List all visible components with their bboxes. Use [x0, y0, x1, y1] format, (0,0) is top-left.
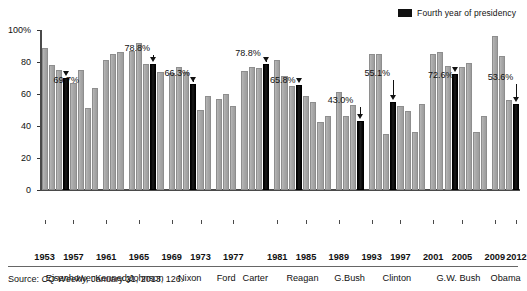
x-axis-tick-mark: [73, 220, 74, 224]
callout-arrow-line: [516, 84, 517, 97]
president-label: Reagan: [286, 273, 318, 283]
x-axis-tick-mark: [400, 220, 401, 224]
bar-value-callout: 43.0%: [328, 95, 354, 105]
president-label: Clinton: [383, 273, 412, 283]
callout-arrow-line: [66, 87, 67, 89]
y-axis-tick-label: 100%: [8, 25, 31, 35]
x-axis-tick-label: 1989: [329, 252, 349, 262]
x-axis-tick-mark: [306, 220, 307, 224]
x-axis-tick-mark: [45, 220, 46, 224]
callout-arrow-head: [452, 67, 458, 72]
callout-arrow-head: [390, 95, 396, 100]
bar-value-callout: 66.3%: [165, 68, 191, 78]
president-label: Ford: [217, 273, 236, 283]
legend-swatch-fourth-year: [398, 9, 412, 17]
x-axis-tick-mark: [372, 220, 373, 224]
x-axis-tick-mark: [433, 220, 434, 224]
y-axis-labels: 100%806040200: [0, 30, 36, 220]
y-axis-tick-label: 80: [21, 57, 31, 67]
source-prefix: Source:: [8, 274, 39, 284]
x-axis-tick-mark: [495, 220, 496, 224]
x-axis-tick-mark: [277, 220, 278, 224]
x-axis-tick-label: 1985: [296, 252, 316, 262]
president-label: G.Bush: [334, 273, 365, 283]
plot-area: 100%806040200 69.7%78.8%66.3%78.8%65.8%4…: [0, 30, 526, 220]
x-axis-tick-label: 1957: [63, 252, 83, 262]
bar-value-callout: 53.6%: [488, 72, 514, 82]
x-axis-tick-mark: [462, 220, 463, 224]
bar-value-callout: 72.6%: [428, 70, 454, 80]
x-axis-tick-mark: [233, 220, 234, 224]
callout-arrow-head: [357, 114, 363, 119]
x-axis-tick-label: 2009: [485, 252, 505, 262]
callout-arrow-head: [263, 57, 269, 62]
annotation-layer: 69.7%78.8%66.3%78.8%65.8%43.0%55.1%72.6%…: [41, 30, 520, 190]
callout-arrow-line: [455, 82, 456, 84]
bar-value-callout: 69.7%: [53, 75, 79, 85]
x-axis-tick-label: 1969: [162, 252, 182, 262]
callout-arrow-head: [63, 71, 69, 76]
callout-arrow-head: [150, 57, 156, 62]
source-detail: January 21, 2013, 126.: [91, 274, 183, 284]
x-axis-tick-mark: [106, 220, 107, 224]
bar-value-callout: 65.8%: [270, 75, 296, 85]
y-axis-tick-label: 40: [21, 121, 31, 131]
bar-value-callout: 78.8%: [235, 48, 261, 58]
x-axis-tick-label: 2001: [423, 252, 443, 262]
callout-arrow-head: [296, 78, 302, 83]
x-axis-tick-mark: [339, 220, 340, 224]
source-note: Source: CQ Weekly, January 21, 2013, 126…: [8, 274, 183, 284]
x-axis-tick-label: 2012: [506, 252, 526, 262]
president-label: G.W. Bush: [436, 273, 480, 283]
x-axis-tick-label: 2005: [452, 252, 472, 262]
x-axis-tick-mark: [201, 220, 202, 224]
source-publication: CQ Weekly,: [42, 274, 89, 284]
president-label: Obama: [491, 273, 521, 283]
y-axis-tick-label: 60: [21, 89, 31, 99]
legend-label: Fourth year of presidency: [417, 8, 516, 18]
x-axis-tick-label: 1961: [96, 252, 116, 262]
callout-arrow-line: [360, 107, 361, 114]
y-axis-tick-label: 0: [26, 185, 31, 195]
x-axis-tick-mark: [516, 220, 517, 224]
callout-arrow-line: [393, 80, 394, 95]
x-axis-tick-label: 1997: [390, 252, 410, 262]
x-axis-tick-mark: [172, 220, 173, 224]
x-axis-tick-label: 1965: [129, 252, 149, 262]
bar-value-callout: 55.1%: [364, 68, 390, 78]
callout-arrow-head: [513, 97, 519, 102]
president-label: Carter: [243, 273, 269, 283]
x-axis-tick-label: 1981: [267, 252, 287, 262]
y-axis-tick-label: 20: [21, 153, 31, 163]
callout-arrow-line: [299, 87, 300, 89]
x-axis-tick-label: 1993: [361, 252, 381, 262]
callout-arrow-head: [190, 77, 196, 82]
x-axis-tick-label: 1973: [190, 252, 210, 262]
footer-rule: [8, 266, 518, 267]
bar-value-callout: 78.8%: [125, 43, 151, 53]
x-axis-tick-label: 1953: [34, 252, 54, 262]
chart-legend: Fourth year of presidency: [398, 8, 516, 18]
x-axis-tick-label: 1977: [223, 252, 243, 262]
x-axis-tick-mark: [139, 220, 140, 224]
